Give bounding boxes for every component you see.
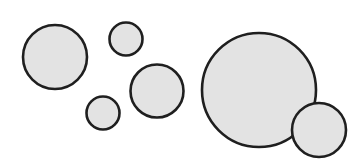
circle-medium-center: [131, 65, 184, 118]
circle-small-bottom: [87, 97, 120, 130]
circle-medium-right: [292, 103, 346, 157]
circle-large-left: [23, 25, 87, 89]
circle-small-top: [110, 23, 143, 56]
circles-diagram: [0, 0, 361, 161]
